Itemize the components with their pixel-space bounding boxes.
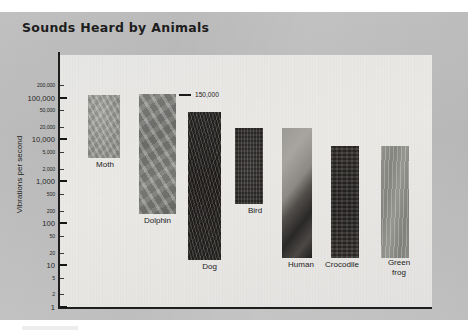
bar-dolphin[interactable] <box>139 94 176 214</box>
bar-label-dolphin: Dolphin <box>128 216 187 226</box>
y-axis-tick-label: 500 <box>3 191 55 197</box>
bar-texture <box>331 146 359 258</box>
y-axis-tick <box>60 253 64 254</box>
y-axis-tick <box>60 278 64 279</box>
y-axis-tick-label: 2 <box>3 291 55 297</box>
y-axis-tick-label: 1 <box>3 303 55 312</box>
bar-dog[interactable] <box>188 112 221 260</box>
y-axis-tick <box>60 294 64 295</box>
bar-texture <box>88 95 120 158</box>
bar-moth[interactable] <box>88 95 120 158</box>
y-axis-tick-labels: 200,000100,00050,00020,00010,0005,0002,0… <box>0 0 55 334</box>
y-axis-tick-label: 200 <box>3 208 55 214</box>
y-axis-tick <box>60 169 64 170</box>
y-axis-tick-label: 1,000 <box>3 177 55 186</box>
y-axis-tick-label: 2,000 <box>3 166 55 172</box>
bar-label-moth: Moth <box>78 160 132 170</box>
y-axis-tick-label: 50,000 <box>3 107 55 113</box>
page-artifact <box>22 326 78 330</box>
y-axis-tick-label: 5,000 <box>3 149 55 155</box>
y-axis-tick <box>60 264 67 266</box>
y-axis-tick-label: 50 <box>3 233 55 239</box>
y-axis-tick-label: 100 <box>3 219 55 228</box>
y-axis-tick <box>60 127 64 128</box>
y-axis-tick-label: 10 <box>3 261 55 270</box>
y-axis-tick <box>60 194 64 195</box>
y-axis-tick <box>60 152 64 153</box>
bar-bird[interactable] <box>235 128 263 204</box>
y-axis-title: Vibrations per second <box>15 120 24 230</box>
y-axis-tick-label: 10,000 <box>3 135 55 144</box>
y-axis-tick-label: 200,000 <box>3 82 55 88</box>
y-axis-tick <box>60 236 64 237</box>
bar-green-frog[interactable] <box>381 146 409 258</box>
annotation-label: 150,000 <box>195 91 219 98</box>
y-axis-tick <box>60 97 67 99</box>
bar-texture <box>282 128 312 258</box>
y-axis-tick-label: 100,000 <box>3 93 55 102</box>
bar-crocodile[interactable] <box>331 146 359 258</box>
annotation-150000: 150,000 <box>179 91 219 98</box>
bar-label-crocodile: Crocodile <box>317 260 367 270</box>
bar-texture <box>235 128 263 204</box>
y-axis-tick <box>60 222 67 224</box>
bar-texture <box>381 146 409 258</box>
y-axis-tick <box>60 211 64 212</box>
leader-dash-icon <box>179 94 191 96</box>
x-axis-line <box>58 307 432 309</box>
y-axis-tick-label: 5 <box>3 275 55 281</box>
bar-label-dog: Dog <box>182 262 237 272</box>
y-axis-tick <box>60 180 67 182</box>
y-axis-tick <box>60 110 64 111</box>
bar-human[interactable] <box>282 128 312 258</box>
y-axis-tick-label: 20 <box>3 250 55 256</box>
y-axis-tick <box>60 138 67 140</box>
bar-label-bird: Bird <box>230 206 280 216</box>
y-axis-tick-label: 20,000 <box>3 124 55 130</box>
y-axis-tick <box>60 306 67 308</box>
bar-texture <box>139 94 176 214</box>
bar-label-green-frog: Greenfrog <box>374 258 424 277</box>
y-axis-tick <box>60 85 64 86</box>
bar-texture <box>188 112 221 260</box>
